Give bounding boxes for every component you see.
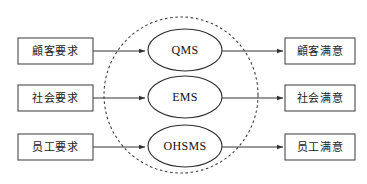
output-label-society-satisfaction: 社会满意 [297, 91, 343, 105]
input-label-customer-requirement: 顧客要求 [32, 44, 78, 58]
system-label-qms: QMS [172, 43, 199, 57]
system-label-ems: EMS [172, 90, 198, 104]
output-node-customer-satisfaction: 顧客满意 [285, 38, 355, 64]
input-label-society-requirement: 社会要求 [32, 91, 78, 105]
input-node-customer-requirement: 顧客要求 [18, 38, 93, 64]
output-label-employee-satisfaction: 员工满意 [297, 140, 343, 154]
output-label-customer-satisfaction: 顧客满意 [297, 44, 343, 58]
input-node-employee-requirement: 员工要求 [18, 134, 93, 160]
diagram-canvas: 顧客要求 社会要求 员工要求 QMS EMS OHSMS 顧客满意 [0, 0, 367, 184]
system-node-ems: EMS [148, 76, 222, 118]
input-node-society-requirement: 社会要求 [18, 85, 93, 111]
system-node-ohsms: OHSMS [148, 125, 222, 167]
input-label-employee-requirement: 员工要求 [32, 141, 78, 154]
output-node-employee-satisfaction: 员工满意 [285, 134, 355, 160]
management-system-diagram: 顧客要求 社会要求 员工要求 QMS EMS OHSMS 顧客满意 [0, 0, 367, 184]
system-label-ohsms: OHSMS [164, 139, 207, 153]
system-node-qms: QMS [148, 29, 222, 71]
output-node-society-satisfaction: 社会满意 [285, 85, 355, 111]
